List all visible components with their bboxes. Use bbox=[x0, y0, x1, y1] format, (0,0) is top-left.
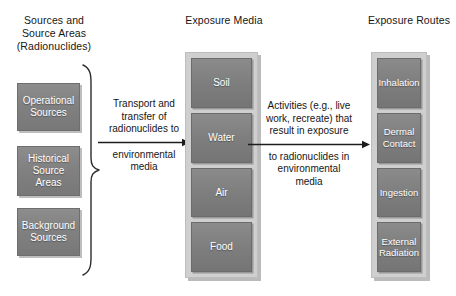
arrow-right-label-below: to radionuclides inenvironmentalmedia bbox=[248, 151, 370, 189]
arrow-right-label-above: Activities (e.g., livework, recreate) th… bbox=[248, 100, 370, 138]
source-box-historical-source-areas: HistoricalSourceAreas bbox=[17, 146, 80, 196]
arrow-left-line bbox=[98, 138, 190, 147]
route-cell-inhalation: Inhalation bbox=[377, 58, 421, 108]
media-cell-air: Air bbox=[191, 168, 252, 218]
exposure-routes-panel: Inhalation DermalContact Ingestion Exter… bbox=[371, 52, 427, 278]
media-cell-soil: Soil bbox=[191, 58, 252, 108]
source-box-background-sources: BackgroundSources bbox=[17, 208, 80, 256]
arrow-activities-exposure: Activities (e.g., livework, recreate) th… bbox=[248, 100, 370, 188]
source-box-operational-sources: OperationalSources bbox=[17, 83, 80, 131]
column-header-exposure-media: Exposure Media bbox=[178, 14, 270, 27]
media-cell-water: Water bbox=[191, 113, 252, 163]
arrow-transport-transfer: Transport andtransfer ofradionuclides to… bbox=[98, 98, 190, 174]
route-cell-dermal-contact: DermalContact bbox=[377, 113, 421, 163]
column-header-exposure-routes: Exposure Routes bbox=[363, 14, 455, 27]
route-cell-external-radiation: ExternalRadiation bbox=[377, 222, 421, 272]
media-cell-food: Food bbox=[191, 222, 252, 272]
diagram-canvas: Sources andSource Areas(Radionuclides) E… bbox=[0, 0, 456, 296]
arrow-left-label-below: environmentalmedia bbox=[98, 149, 190, 174]
route-cell-ingestion: Ingestion bbox=[377, 168, 421, 218]
arrow-left-label-above: Transport andtransfer ofradionuclides to bbox=[98, 98, 190, 136]
arrow-right-line bbox=[248, 140, 370, 149]
column-header-sources: Sources andSource Areas(Radionuclides) bbox=[8, 14, 100, 53]
